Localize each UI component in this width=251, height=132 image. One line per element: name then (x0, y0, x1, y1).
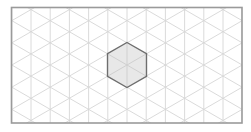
grid-line-diagonal (0, 0, 251, 17)
highlighted-hexagon (108, 43, 147, 88)
grid-line-diagonal (0, 0, 251, 20)
grid-line-diagonal (0, 91, 251, 132)
isometric-grid-diagram (0, 0, 251, 132)
grid-line-diagonal (0, 110, 251, 132)
